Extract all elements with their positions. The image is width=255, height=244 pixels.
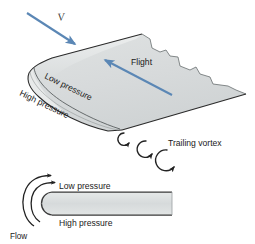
high-pressure-label-lower: High pressure xyxy=(59,218,113,228)
wing-vortex-figure: V Flight Low pressure High pressure Trai… xyxy=(0,0,255,244)
velocity-arrow xyxy=(27,13,75,44)
airfoil-slab xyxy=(41,192,173,215)
vortex-arc-medium xyxy=(137,141,152,157)
trailing-vortex-group xyxy=(118,133,174,171)
trailing-vortex-label: Trailing vortex xyxy=(168,138,222,148)
diagram-canvas: V Flight Low pressure High pressure Trai… xyxy=(0,0,255,244)
vortex-arc-small xyxy=(118,133,129,145)
velocity-label: V xyxy=(57,10,66,23)
flight-label: Flight xyxy=(131,57,153,67)
flow-label: Flow xyxy=(10,232,27,241)
low-pressure-label-lower: Low pressure xyxy=(59,181,111,191)
vortex-arc-large xyxy=(156,150,174,171)
wing-3d-group: V Flight Low pressure High pressure xyxy=(18,10,246,131)
airfoil-section-group: Low pressure High pressure Flow xyxy=(10,176,172,242)
